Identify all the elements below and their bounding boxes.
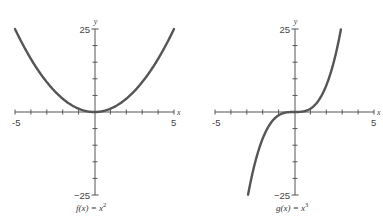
y-axis-label: y — [93, 17, 98, 26]
x-axis-label: x — [376, 108, 381, 117]
function-caption: g(x) = x3 — [276, 201, 308, 213]
y-tick-label-max: 25 — [279, 24, 290, 35]
chart-f-x-squared: -5525−25xyf(x) = x2 — [12, 17, 181, 213]
x-axis-label: x — [176, 108, 181, 117]
x-tick-label-max: 5 — [371, 117, 376, 128]
charts-canvas: -5525−25xyf(x) = x2 -5525−25xyg(x) = x3 — [0, 0, 383, 223]
x-tick-label-min: -5 — [212, 117, 220, 128]
function-caption: f(x) = x2 — [76, 201, 106, 213]
y-tick-label-min: −25 — [274, 190, 290, 201]
x-tick-label-max: 5 — [171, 117, 176, 128]
y-axis-label: y — [293, 17, 298, 26]
chart-g-x-cubed: -5525−25xyg(x) = x3 — [212, 17, 381, 213]
x-tick-label-min: -5 — [12, 117, 20, 128]
y-tick-label-max: 25 — [79, 24, 90, 35]
y-tick-label-min: −25 — [74, 190, 90, 201]
